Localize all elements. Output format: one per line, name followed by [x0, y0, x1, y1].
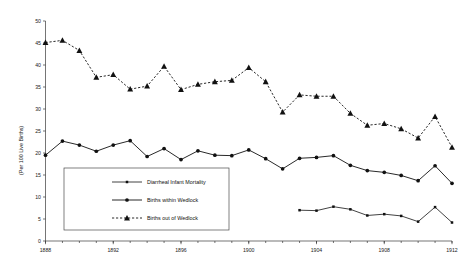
y-tick-label: 50 — [35, 18, 41, 24]
data-point-square — [298, 209, 301, 212]
data-point-triangle — [381, 120, 387, 126]
data-point-circle — [315, 156, 319, 160]
data-point-circle — [450, 182, 454, 186]
x-tick-label: 1904 — [311, 247, 323, 253]
x-axis: 1888189218961900190419081912 — [40, 241, 458, 253]
data-point-triangle — [59, 37, 65, 43]
data-point-circle — [196, 149, 200, 153]
y-tick-label: 0 — [38, 238, 41, 244]
y-tick-label: 45 — [35, 40, 41, 46]
data-point-circle — [128, 139, 132, 143]
x-tick-label: 1912 — [446, 247, 458, 253]
y-tick-label: 5 — [38, 216, 41, 222]
series-line — [46, 40, 453, 147]
legend-label: Diarrheal Infant Mortality — [147, 179, 206, 185]
data-point-triangle — [93, 74, 99, 80]
data-point-circle — [230, 154, 234, 158]
y-axis: 05101520253035404550 — [35, 18, 45, 244]
series-diarrheal-infant-mortality — [298, 205, 453, 223]
y-tick-label: 35 — [35, 84, 41, 90]
data-point-circle — [213, 153, 217, 157]
x-tick-label: 1908 — [378, 247, 390, 253]
chart-legend: Diarrheal Infant MortalityBirths within … — [64, 168, 229, 230]
data-point-circle — [298, 156, 302, 160]
data-point-circle — [179, 158, 183, 162]
data-point-circle — [61, 139, 65, 143]
legend-label: Births within Wedlock — [147, 197, 198, 203]
data-point-circle — [44, 153, 48, 157]
data-point-square — [400, 215, 403, 218]
y-tick-label: 30 — [35, 106, 41, 112]
data-point-square — [434, 206, 437, 209]
data-point-square — [315, 209, 318, 212]
data-point-triangle — [195, 81, 201, 87]
data-point-square — [332, 205, 335, 208]
data-point-circle — [145, 155, 149, 159]
data-point-square — [349, 208, 352, 211]
y-tick-label: 20 — [35, 150, 41, 156]
data-point-circle — [349, 163, 353, 167]
y-axis-title: (Per 100 Live Births) — [18, 126, 24, 175]
x-tick-label: 1892 — [107, 247, 119, 253]
line-chart: 05101520253035404550 1888189218961900190… — [0, 0, 468, 267]
data-point-circle — [125, 198, 129, 202]
data-point-circle — [332, 154, 336, 158]
series-line — [300, 207, 452, 223]
y-tick-label: 25 — [35, 128, 41, 134]
data-point-circle — [399, 174, 403, 178]
x-tick-label: 1900 — [243, 247, 255, 253]
data-point-square — [126, 181, 129, 184]
y-tick-label: 10 — [35, 194, 41, 200]
data-point-circle — [281, 167, 285, 171]
data-point-circle — [365, 169, 369, 173]
data-point-triangle — [110, 72, 116, 78]
data-point-circle — [264, 157, 268, 161]
x-tick-label: 1896 — [175, 247, 187, 253]
data-point-circle — [416, 179, 420, 183]
data-point-triangle — [432, 113, 438, 119]
data-point-circle — [382, 171, 386, 175]
data-point-square — [451, 221, 454, 224]
data-point-triangle — [297, 92, 303, 98]
data-point-triangle — [229, 77, 235, 83]
data-point-triangle — [161, 63, 167, 69]
data-point-triangle — [76, 47, 82, 53]
data-point-triangle — [246, 65, 252, 71]
data-point-square — [383, 213, 386, 216]
x-tick-label: 1888 — [40, 247, 52, 253]
y-tick-label: 15 — [35, 172, 41, 178]
data-point-circle — [78, 143, 82, 147]
series-births-out-of-wedlock — [43, 37, 455, 149]
legend-label: Births out of Wedlock — [147, 215, 198, 221]
data-point-square — [417, 220, 420, 223]
data-point-square — [366, 214, 369, 217]
data-point-triangle — [449, 144, 455, 150]
y-tick-label: 40 — [35, 62, 41, 68]
data-point-circle — [433, 164, 437, 168]
data-point-triangle — [364, 122, 370, 128]
data-point-circle — [94, 149, 98, 153]
data-point-circle — [111, 143, 115, 147]
chart-container: 05101520253035404550 1888189218961900190… — [0, 0, 468, 267]
data-point-circle — [247, 148, 251, 152]
data-point-circle — [162, 147, 166, 151]
